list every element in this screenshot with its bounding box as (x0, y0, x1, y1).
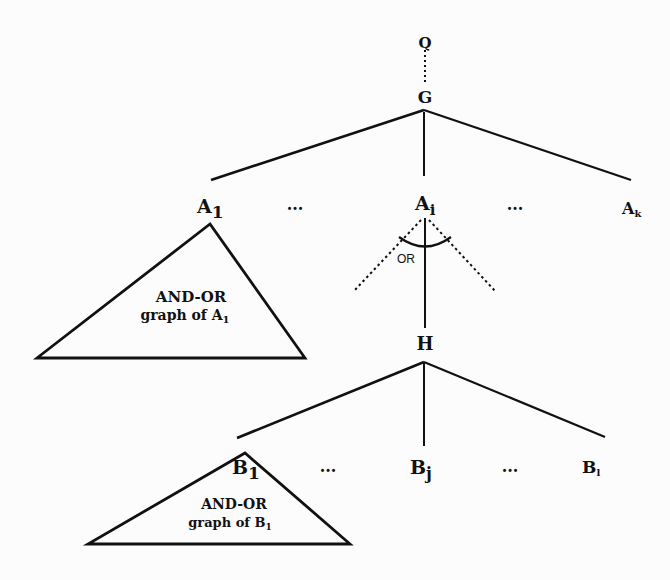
node-g: G (418, 87, 433, 107)
ellipsis-a-right: ... (507, 195, 524, 214)
node-bj: Bj (410, 456, 432, 483)
subgraph-a1-line1: AND-OR (155, 288, 227, 306)
or-label: OR (397, 252, 415, 266)
ellipsis-a-left: ... (287, 195, 304, 214)
and-or-graph-diagram: Q G A1 ... Ai ... Ak OR H AND-OR graph o… (0, 0, 670, 580)
node-a1: A1 (196, 195, 224, 222)
subgraph-b1-line1: AND-OR (200, 496, 267, 512)
node-h: H (416, 333, 433, 354)
edge-g-a1 (211, 110, 424, 180)
node-q: Q (418, 34, 431, 52)
edge-h-bl (424, 362, 605, 437)
edge-ai-right-alternative (429, 220, 496, 292)
node-ak: Ak (621, 199, 642, 219)
edge-h-b1 (237, 362, 424, 438)
subgraph-a1-line2: graph of A1 (140, 307, 229, 325)
ellipsis-b-right: ... (502, 457, 519, 476)
node-ai: Ai (414, 192, 436, 219)
node-bl: Bl (582, 457, 600, 478)
edge-g-ak (424, 110, 631, 180)
ellipsis-b-left: ... (320, 457, 337, 476)
node-b1: B1 (232, 456, 260, 483)
subgraph-b1-line2: graph of B1 (188, 515, 271, 532)
